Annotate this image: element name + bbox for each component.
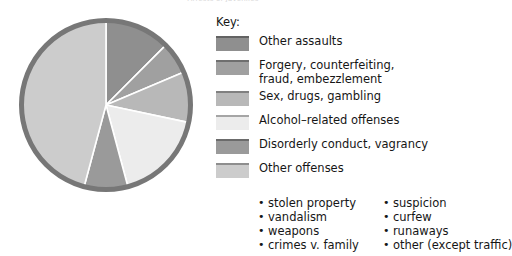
other-offenses-column-left: stolen propertyvandalismweaponscrimes v.… <box>258 196 359 252</box>
other-offense-item: stolen property <box>258 196 359 210</box>
legend-item: Sex, drugs, gambling <box>216 90 462 110</box>
legend-item-label: Sex, drugs, gambling <box>259 90 381 104</box>
legend-item-label: Alcohol–related offenses <box>259 114 399 128</box>
other-offense-item: suspicion <box>383 196 512 210</box>
legend: Key: Other assaultsForgery, counterfeiti… <box>216 16 462 186</box>
other-offenses-column-right: suspicioncurfewrunawaysother (except tra… <box>383 196 512 252</box>
legend-item: Other offenses <box>216 162 462 182</box>
legend-swatch <box>216 163 249 178</box>
legend-item-label: Forgery, counterfeiting, fraud, embezzle… <box>259 59 395 86</box>
legend-item: Alcohol–related offenses <box>216 114 462 134</box>
legend-item: Forgery, counterfeiting, fraud, embezzle… <box>216 59 462 86</box>
legend-title: Key: <box>216 16 462 29</box>
pie-chart-svg <box>15 14 197 196</box>
legend-swatch <box>216 91 249 106</box>
other-offense-item: other (except traffic) <box>383 238 512 252</box>
legend-swatch <box>216 36 249 51</box>
legend-swatch <box>216 115 249 130</box>
other-offenses-detail: stolen propertyvandalismweaponscrimes v.… <box>258 196 512 252</box>
legend-swatch <box>216 60 249 75</box>
other-offense-item: curfew <box>383 210 512 224</box>
other-offense-item: crimes v. family <box>258 238 359 252</box>
legend-swatch <box>216 139 249 154</box>
legend-list: Other assaultsForgery, counterfeiting, f… <box>216 35 462 182</box>
legend-item: Other assaults <box>216 35 462 55</box>
legend-item-label: Other offenses <box>259 162 344 176</box>
other-offense-item: weapons <box>258 224 359 238</box>
legend-item-label: Other assaults <box>259 35 342 49</box>
other-offense-item: vandalism <box>258 210 359 224</box>
chart-title: Arrests of Juveniles <box>113 0 333 2</box>
pie-chart <box>15 14 197 196</box>
legend-item: Disorderly conduct, vagrancy <box>216 138 462 158</box>
other-offense-item: runaways <box>383 224 512 238</box>
legend-item-label: Disorderly conduct, vagrancy <box>259 138 428 152</box>
